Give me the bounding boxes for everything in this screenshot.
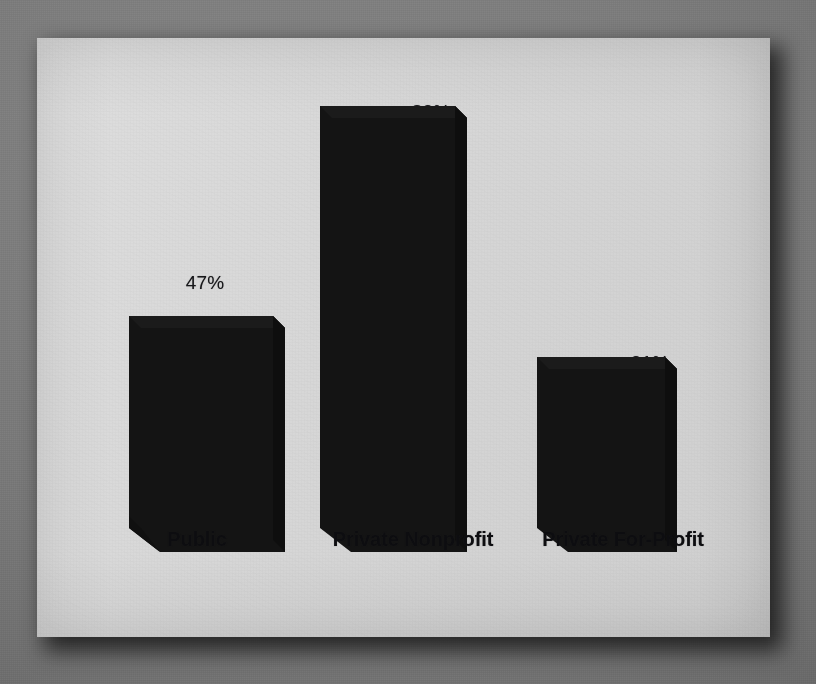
printed-page: 47% Public 82% (37, 38, 770, 637)
paper-lighting-gradient (37, 38, 770, 637)
chart-screenshot: 47% Public 82% (0, 0, 816, 684)
